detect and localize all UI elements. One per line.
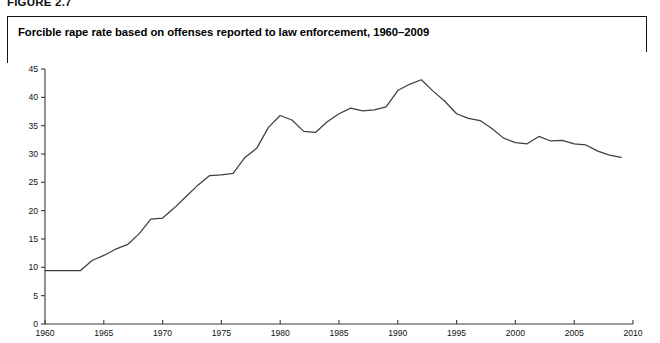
x-tick-label: 2010 [623, 328, 642, 338]
y-tick-label: 5 [33, 291, 38, 301]
y-axis: 051015202530354045 [28, 64, 45, 329]
x-tick-label: 1995 [447, 328, 466, 338]
x-tick-label: 1980 [271, 328, 290, 338]
y-tick-label: 25 [28, 177, 38, 187]
y-tick-label: 40 [28, 92, 38, 102]
figure-container: FIGURE 2.7 Forcible rape rate based on o… [0, 0, 660, 343]
chart-plot-area: 051015202530354045 196019651970197519801… [0, 0, 660, 343]
x-tick-label: 2000 [506, 328, 525, 338]
y-tick-label: 30 [28, 149, 38, 159]
x-tick-label: 1975 [212, 328, 231, 338]
x-axis: 1960196519701975198019851990199520002005… [35, 320, 642, 338]
y-tick-label: 15 [28, 234, 38, 244]
x-tick-label: 1990 [388, 328, 407, 338]
y-tick-label: 10 [28, 262, 38, 272]
y-tick-label: 45 [28, 64, 38, 74]
line-chart: 051015202530354045 196019651970197519801… [0, 0, 660, 343]
line-series [45, 80, 621, 271]
y-tick-label: 20 [28, 206, 38, 216]
y-tick-label: 35 [28, 121, 38, 131]
x-tick-label: 1970 [153, 328, 172, 338]
x-tick-label: 1960 [35, 328, 54, 338]
x-tick-label: 1985 [329, 328, 348, 338]
x-tick-label: 1965 [94, 328, 113, 338]
x-tick-label: 2005 [565, 328, 584, 338]
